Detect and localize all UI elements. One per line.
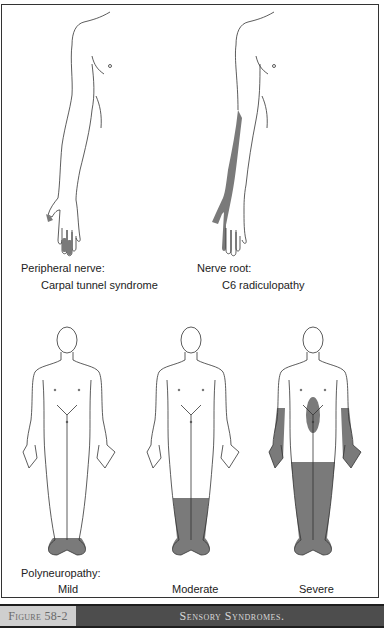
- label-mild: Mild: [58, 583, 78, 596]
- arm-illustration-carpal-tunnel: [0, 0, 192, 260]
- arm-illustration-c6-radiculopathy: [192, 0, 384, 260]
- figure-title: Sensory Syndromes.: [80, 606, 384, 626]
- panel-subheading-c6-radiculopathy: C6 radiculopathy: [222, 279, 305, 292]
- figure-caption-bar: Figure 58-2 Sensory Syndromes.: [0, 604, 384, 628]
- figure-number: Figure 58-2: [0, 606, 76, 626]
- panel-heading-polyneuropathy: Polyneuropathy:: [21, 567, 101, 580]
- panel-subheading-carpal-tunnel: Carpal tunnel syndrome: [41, 279, 158, 292]
- label-severe: Severe: [299, 583, 334, 596]
- body-illustrations-polyneuropathy: [0, 310, 384, 570]
- panel-heading-nerve-root: Nerve root:: [197, 262, 251, 275]
- label-moderate: Moderate: [172, 583, 218, 596]
- panel-heading-peripheral-nerve: Peripheral nerve:: [21, 262, 105, 275]
